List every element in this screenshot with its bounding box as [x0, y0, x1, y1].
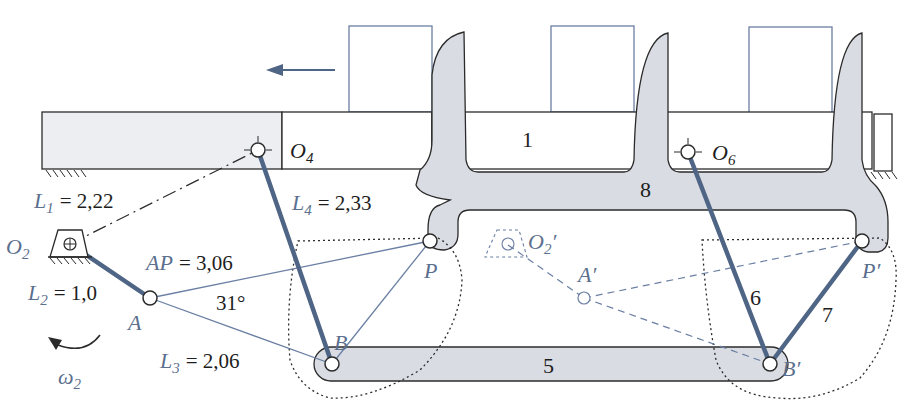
- left-arrow-icon: [266, 64, 335, 76]
- label-B: B: [334, 330, 347, 355]
- link-number-7: 7: [822, 302, 833, 327]
- dim-L1: L1= 2,22: [33, 188, 114, 216]
- joint-P-prime: [855, 234, 869, 248]
- joint-B: [325, 357, 339, 371]
- link-number-1: 1: [522, 127, 533, 152]
- label-P-prime: P′: [861, 258, 881, 283]
- dim-angle: 31°: [216, 291, 245, 315]
- rotation-arrow-icon: [48, 335, 100, 350]
- label-A-prime: A′: [576, 262, 597, 287]
- dim-L3: L3= 2,06: [159, 348, 240, 376]
- dim-L4: L4= 2,33: [291, 190, 372, 218]
- label-O2-prime: O2′: [528, 229, 557, 257]
- link-7: [770, 241, 862, 364]
- label-A: A: [126, 310, 142, 335]
- joint-P: [423, 234, 437, 248]
- link-number-6: 6: [750, 285, 761, 310]
- label-omega2: ω2: [58, 364, 82, 392]
- ghost-pivot-O2-prime: [485, 230, 527, 257]
- link-number-8: 8: [640, 177, 651, 202]
- ghost-joint-A-prime: [578, 292, 590, 304]
- label-P: P: [423, 258, 437, 283]
- link-number-5: 5: [543, 353, 554, 378]
- joint-A: [143, 291, 157, 305]
- label-B-prime: B′: [782, 356, 801, 381]
- joint-O6: [681, 145, 695, 159]
- label-O2: O2: [6, 234, 30, 262]
- dim-L2: L2= 1,0: [27, 280, 97, 308]
- ghost-linkage: [508, 241, 862, 364]
- joint-B-prime: [763, 357, 777, 371]
- linkage-diagram: O2 O4 O6 O2′ A A′ B B′ P P′ ω2 L1= 2,22 …: [0, 0, 910, 406]
- dim-AP: AP= 3,06: [144, 250, 233, 275]
- pivot-O2: [48, 230, 92, 264]
- package-boxes: [349, 26, 832, 113]
- joint-O4: [251, 143, 265, 157]
- rocker-L4: [258, 150, 332, 364]
